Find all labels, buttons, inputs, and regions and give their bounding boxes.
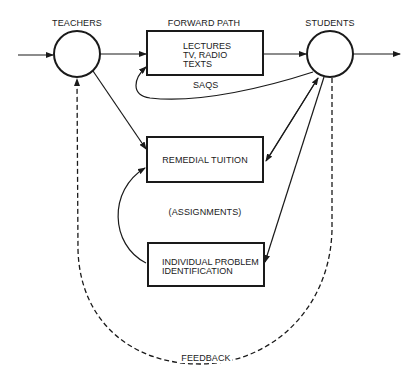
teachers-to-remedial-arrow — [93, 71, 146, 149]
forward-line-3: TEXTS — [183, 60, 212, 69]
assignments-label: (ASSIGNMENTS) — [169, 208, 242, 217]
saqs-label: SAQS — [193, 81, 218, 90]
feedback-dashed-loop — [77, 78, 332, 364]
saqs-arrow — [136, 67, 313, 99]
students-label: STUDENTS — [305, 19, 354, 28]
teachers-label: TEACHERS — [52, 19, 102, 28]
feedback-arrowhead — [74, 78, 80, 86]
assignments-arrow — [118, 168, 146, 263]
teachers-node — [54, 31, 100, 77]
feedback-label: FEEDBACK — [179, 354, 232, 363]
remedial-tuition-label: REMEDIAL TUITION — [162, 156, 248, 165]
individual-line-2: IDENTIFICATION — [162, 267, 233, 276]
forward-path-label: FORWARD PATH — [168, 19, 240, 28]
students-to-individual-arrow — [265, 77, 324, 262]
students-node — [307, 31, 353, 77]
